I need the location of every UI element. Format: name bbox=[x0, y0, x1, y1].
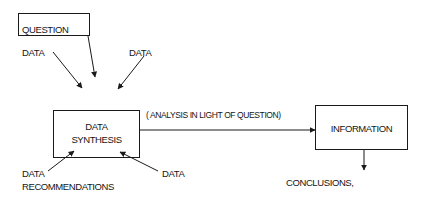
question-label: QUESTION bbox=[22, 24, 68, 35]
arrow-question bbox=[88, 36, 95, 77]
data-synthesis-box: DATA SYNTHESIS bbox=[53, 110, 140, 158]
synthesis-label-line2: SYNTHESIS bbox=[54, 133, 139, 146]
question-box: QUESTION bbox=[18, 13, 90, 36]
information-label: INFORMATION bbox=[316, 122, 407, 135]
synthesis-label-line1: DATA bbox=[54, 120, 139, 133]
arrow-data-top-left bbox=[53, 52, 82, 88]
recommendations-label: RECOMMENDATIONS bbox=[22, 181, 114, 192]
data-label-bottom-left: DATA bbox=[22, 168, 44, 179]
information-box: INFORMATION bbox=[315, 105, 408, 150]
conclusions-label: CONCLUSIONS, bbox=[286, 177, 354, 188]
data-label-bottom-right: DATA bbox=[162, 168, 184, 179]
data-synthesis-diagram: QUESTION DATA DATA DATA SYNTHESIS ( ANAL… bbox=[0, 0, 427, 204]
data-label-top-right: DATA bbox=[129, 47, 151, 58]
data-label-top-left: DATA bbox=[22, 47, 44, 58]
analysis-edge-label: ( ANALYSIS IN LIGHT OF QUESTION) bbox=[146, 110, 281, 121]
arrow-data-top-right bbox=[118, 56, 144, 89]
